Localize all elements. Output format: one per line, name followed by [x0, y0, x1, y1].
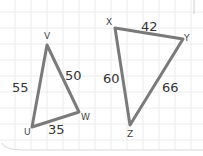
page-edge-line [2, 143, 203, 150]
vertex-label-u: U [24, 127, 31, 137]
vertex-label-v: V [44, 31, 51, 41]
side-length-xz: 60 [103, 71, 120, 86]
diagram-svg: U V W 55 50 35 X Y Z 42 60 66 [0, 0, 203, 156]
vertex-label-z: Z [127, 129, 133, 139]
side-length-uw: 35 [48, 122, 65, 137]
triangle-uvw [32, 45, 79, 127]
vertex-label-w: W [81, 112, 90, 122]
vertex-label-y: Y [183, 33, 190, 43]
side-length-uv: 55 [12, 80, 29, 95]
diagram-canvas: U V W 55 50 35 X Y Z 42 60 66 [0, 0, 203, 156]
vertex-label-x: X [106, 17, 112, 27]
side-length-xy: 42 [141, 19, 158, 34]
side-length-yz: 66 [162, 80, 179, 95]
side-length-vw: 50 [65, 68, 82, 83]
